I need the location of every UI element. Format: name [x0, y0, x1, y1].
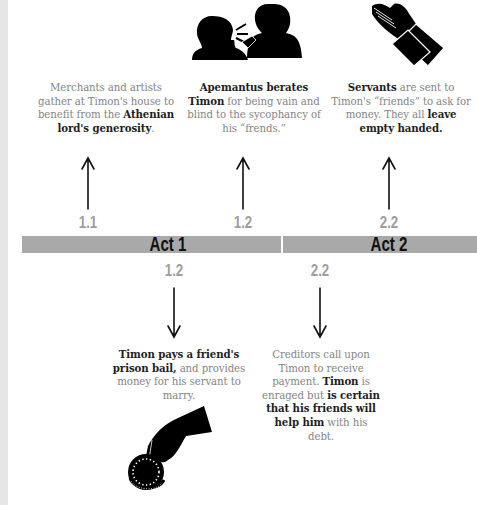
shouter-silhouette	[192, 16, 248, 60]
shouting-man-icon	[190, 2, 302, 60]
event-description-2-2-below: Creditors call upon Timon to receive pay…	[262, 348, 380, 443]
left-margin-strip	[0, 0, 8, 505]
event-description-1-2-above: Apemantus berates Timon for being vain a…	[186, 81, 322, 135]
act-1-label: Act 1	[132, 232, 204, 256]
scene-number-1-2-below: 1.2	[158, 261, 189, 281]
scene-number-1-2-above: 1.2	[227, 213, 258, 233]
scene-number-1-1: 1.1	[72, 213, 103, 233]
begging-hands-icon	[370, 0, 450, 68]
down-arrow-icon	[166, 286, 182, 340]
scene-number-2-2-below: 2.2	[304, 261, 335, 281]
scene-number-2-2-above: 2.2	[373, 213, 404, 233]
act-2-label: Act 2	[353, 232, 425, 256]
up-arrow-icon	[381, 155, 397, 211]
hand-with-coin-icon	[124, 406, 212, 496]
up-arrow-icon	[80, 155, 96, 211]
event-description-2-2-above: Servants are sent to Timon's “friends” t…	[330, 81, 472, 135]
up-arrow-icon	[235, 155, 251, 211]
event-description-1-1: Merchants and artists gather at Timon's …	[34, 81, 178, 135]
down-arrow-icon	[312, 286, 328, 340]
event-description-1-2-below: Timon pays a friend's prison bail, and p…	[108, 348, 250, 402]
listener-silhouette	[247, 4, 302, 58]
